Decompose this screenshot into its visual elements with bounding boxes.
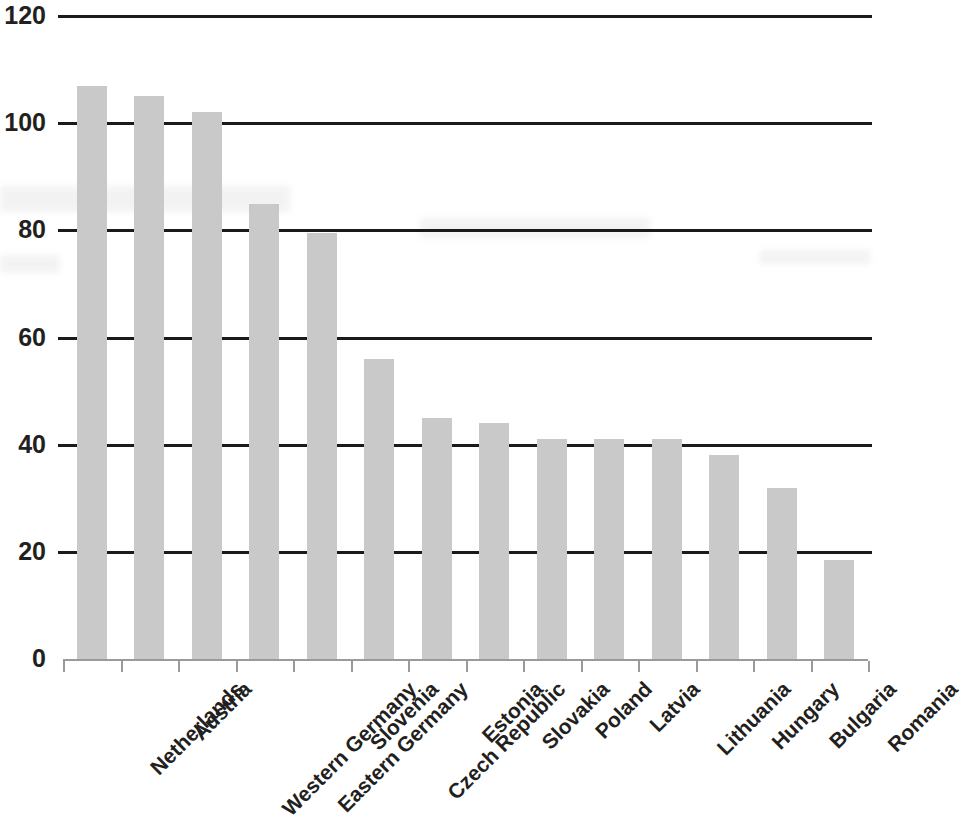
bar [709, 455, 739, 659]
x-tick-mark [178, 661, 180, 672]
x-tick-mark [351, 661, 353, 672]
x-tick-mark [523, 661, 525, 672]
bar [307, 233, 337, 659]
y-tick-label-120: 120 [0, 3, 46, 28]
x-tick-mark [753, 661, 755, 672]
bar [652, 439, 682, 659]
bar [77, 86, 107, 659]
bar [422, 418, 452, 659]
x-tick-mark [293, 661, 295, 672]
y-tick-label-0: 0 [0, 646, 46, 671]
bar [192, 112, 222, 659]
bar [594, 439, 624, 659]
x-tick-mark [868, 661, 870, 672]
bar [249, 204, 279, 659]
x-tick-mark [696, 661, 698, 672]
x-tick-mark [638, 661, 640, 672]
x-tick-mark [121, 661, 123, 672]
bar [134, 96, 164, 659]
bar [364, 359, 394, 659]
y-tick-label-100: 100 [0, 110, 46, 135]
x-tick-mark [811, 661, 813, 672]
x-tick-mark [236, 661, 238, 672]
x-tick-mark [408, 661, 410, 672]
bar [537, 439, 567, 659]
bar [767, 488, 797, 659]
bar [479, 423, 509, 659]
plot-area [63, 16, 868, 659]
bar [824, 560, 854, 659]
y-tick-label-20: 20 [0, 539, 46, 564]
y-tick-label-40: 40 [0, 432, 46, 457]
x-tick-mark [581, 661, 583, 672]
y-tick-label-80: 80 [0, 217, 46, 242]
scan-artifact [0, 255, 60, 273]
x-tick-mark [466, 661, 468, 672]
x-tick-mark [63, 661, 65, 672]
x-axis-label: Latvia [645, 677, 705, 737]
y-tick-label-60: 60 [0, 325, 46, 350]
